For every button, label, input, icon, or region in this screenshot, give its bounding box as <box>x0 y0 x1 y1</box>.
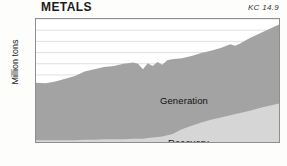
series-label-recovery: Recovery <box>168 137 209 143</box>
series-label-generation: Generation <box>160 95 208 106</box>
chart-code-label: KC 14.9 <box>248 3 279 13</box>
y-axis-title: Million tons <box>10 16 20 108</box>
metals-chart: METALS KC 14.9 Million tons 024681012141… <box>0 0 287 166</box>
page-title: METALS <box>41 1 92 14</box>
plot-area: 0246810121416182022 19601970198019902000… <box>35 18 280 143</box>
x-axis-ticks: 196019701980199020002010 <box>36 19 279 142</box>
